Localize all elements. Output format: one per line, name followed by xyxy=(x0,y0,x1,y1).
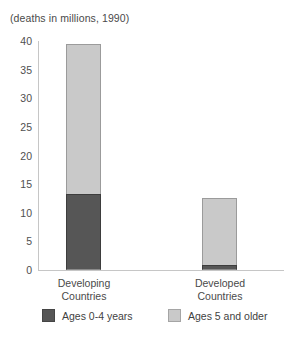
category-label-line: Developing xyxy=(19,277,149,290)
legend-item-ages-5-and-older: Ages 5 and older xyxy=(168,309,267,322)
y-axis-tick-label: 15 xyxy=(20,179,32,190)
bar-group[interactable] xyxy=(66,44,101,270)
y-axis-tick-label: 30 xyxy=(20,93,32,104)
y-axis-tick-label: 35 xyxy=(20,64,32,75)
category-label: DevelopedCountries xyxy=(155,277,285,302)
chart-container: (deaths in millions, 1990) 4035302520151… xyxy=(0,0,294,339)
chart-title: (deaths in millions, 1990) xyxy=(10,12,129,24)
y-axis-tick-label: 5 xyxy=(26,236,32,247)
category-label-line: Countries xyxy=(19,290,149,303)
bar-segment[interactable] xyxy=(66,44,101,193)
y-axis-tick-label: 40 xyxy=(20,36,32,47)
bar-segment[interactable] xyxy=(202,198,237,264)
bar-group[interactable] xyxy=(202,198,237,270)
legend-swatch-icon-light xyxy=(168,309,181,322)
category-label: DevelopingCountries xyxy=(19,277,149,302)
legend-label: Ages 5 and older xyxy=(188,310,267,322)
legend-label: Ages 0-4 years xyxy=(62,310,133,322)
y-axis-line xyxy=(38,41,39,270)
category-label-line: Developed xyxy=(155,277,285,290)
y-axis-tick-label: 25 xyxy=(20,122,32,133)
bar-segment[interactable] xyxy=(66,194,101,270)
plot-area: 4035302520151050 DevelopingCountriesDeve… xyxy=(38,41,284,271)
legend-swatch-icon-dark xyxy=(42,309,55,322)
y-axis-tick-label: 10 xyxy=(20,208,32,219)
legend-item-ages-0-4: Ages 0-4 years xyxy=(42,309,133,322)
y-axis-tick-label: 20 xyxy=(20,150,32,161)
x-axis-line xyxy=(38,270,284,271)
chart-legend: Ages 0-4 years Ages 5 and older xyxy=(0,309,294,333)
y-axis-tick-label: 0 xyxy=(26,265,32,276)
bar-segment[interactable] xyxy=(202,265,237,270)
category-label-line: Countries xyxy=(155,290,285,303)
